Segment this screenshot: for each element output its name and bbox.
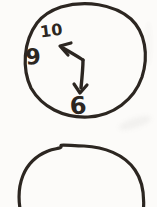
numeral-10: 10	[39, 20, 63, 42]
clock-drawing: 10 9 6	[0, 0, 157, 207]
numeral-9: 9	[25, 44, 42, 70]
numeral-6: 6	[68, 91, 87, 120]
clock-hand-down-shaft	[81, 60, 83, 88]
sketch-canvas: 10 9 6	[0, 0, 157, 207]
bottom-circle-outline	[19, 145, 144, 207]
